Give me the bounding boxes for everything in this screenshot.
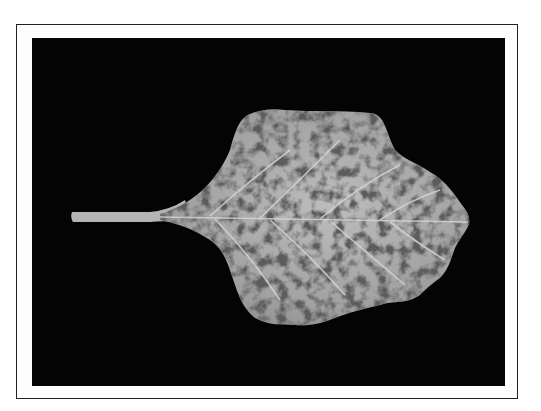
leaf-illustration: [32, 38, 505, 386]
leaf-photograph: [32, 38, 505, 386]
